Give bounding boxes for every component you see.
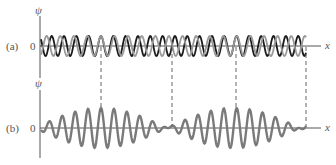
panel-a [40,16,321,78]
panel-b-label: (b) [6,123,19,134]
beats-diagram [0,0,336,165]
panel-a-psi-label: ψ [35,5,42,16]
panel-b-zero-label: 0 [30,123,36,134]
panel-a-label: (a) [6,41,18,52]
panel-b-psi-label: ψ [35,78,42,89]
dashed-guide-lines [101,47,306,127]
panel-a-x-label: x [325,40,330,51]
panel-b [40,90,321,158]
panel-b-x-label: x [325,122,330,133]
panel-a-zero-label: 0 [30,41,36,52]
